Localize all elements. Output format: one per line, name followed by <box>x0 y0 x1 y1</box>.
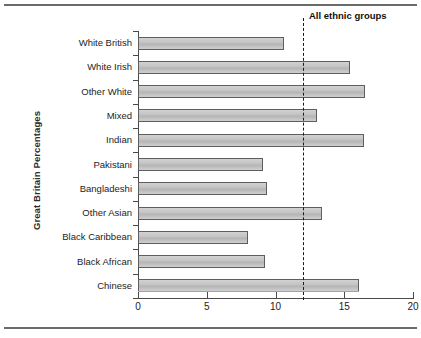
y-axis-tick <box>133 249 138 250</box>
bar <box>138 207 322 220</box>
x-axis-tick <box>413 292 414 299</box>
x-axis-tick <box>138 292 139 299</box>
x-axis-tick-label: 5 <box>187 301 227 312</box>
bar <box>138 37 284 50</box>
x-axis-tick-label: 10 <box>256 301 296 312</box>
category-label: White Irish <box>12 61 132 72</box>
bar <box>138 158 263 171</box>
category-label: Chinese <box>12 280 132 291</box>
baseline-artifact <box>138 291 359 292</box>
category-label: Other White <box>12 86 132 97</box>
category-label: Black African <box>12 256 132 267</box>
chart-figure: Great Britain Percentages White BritishW… <box>0 0 421 338</box>
figure-top-rule <box>4 4 417 6</box>
y-axis-tick <box>133 177 138 178</box>
y-axis-tick <box>133 31 138 32</box>
y-axis-tick <box>133 128 138 129</box>
y-axis-tick <box>133 104 138 105</box>
category-label: Indian <box>12 134 132 145</box>
reference-line-all-ethnic-groups <box>303 18 304 300</box>
category-label: Mixed <box>12 110 132 121</box>
bar <box>138 182 267 195</box>
category-label: Black Caribbean <box>12 231 132 242</box>
figure-bottom-rule <box>4 327 417 329</box>
x-axis-tick <box>207 292 208 299</box>
category-label: Bangladeshi <box>12 183 132 194</box>
x-axis-tick-label: 20 <box>393 301 421 312</box>
y-axis-tick <box>133 274 138 275</box>
x-axis-tick <box>344 292 345 299</box>
y-axis-tick <box>133 152 138 153</box>
category-label: Other Asian <box>12 207 132 218</box>
category-label: White British <box>12 37 132 48</box>
y-axis-tick <box>133 201 138 202</box>
bar <box>138 61 350 74</box>
y-axis-tick <box>133 80 138 81</box>
bar <box>138 255 265 268</box>
bar <box>138 134 364 147</box>
bar <box>138 231 248 244</box>
y-axis-tick <box>133 225 138 226</box>
reference-line-label: All ethnic groups <box>309 10 387 21</box>
category-label: Pakistani <box>12 159 132 170</box>
y-axis-tick <box>133 55 138 56</box>
bar <box>138 85 365 98</box>
x-axis-tick <box>276 292 277 299</box>
bar <box>138 109 317 122</box>
x-axis-tick-label: 0 <box>118 301 158 312</box>
x-axis-tick-label: 15 <box>324 301 364 312</box>
